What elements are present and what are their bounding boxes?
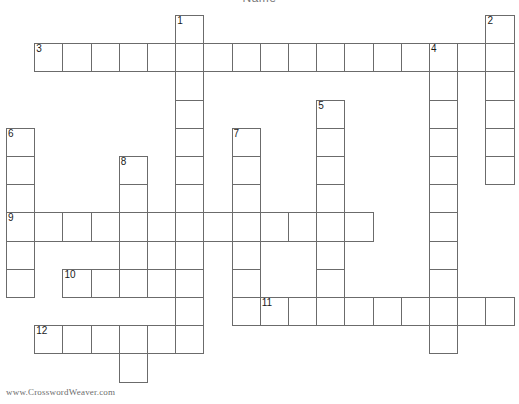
crossword-cell[interactable] (485, 43, 514, 72)
crossword-cell[interactable] (175, 241, 204, 270)
crossword-cell[interactable] (429, 212, 458, 241)
crossword-cell[interactable] (175, 297, 204, 326)
crossword-cell[interactable] (175, 156, 204, 185)
crossword-cell[interactable] (429, 71, 458, 100)
crossword-grid[interactable]: 123456789101112 (0, 0, 519, 404)
crossword-cell[interactable] (344, 297, 373, 326)
crossword-cell[interactable] (175, 325, 204, 354)
crossword-cell[interactable] (119, 241, 148, 270)
crossword-cell[interactable] (91, 212, 120, 241)
crossword-cell[interactable]: 12 (34, 325, 63, 354)
crossword-cell[interactable] (119, 325, 148, 354)
crossword-cell[interactable] (288, 43, 317, 72)
crossword-cell[interactable] (175, 71, 204, 100)
crossword-cell[interactable]: 2 (485, 15, 514, 44)
crossword-cell[interactable] (91, 269, 120, 298)
crossword-cell[interactable] (119, 353, 148, 382)
crossword-cell[interactable] (175, 184, 204, 213)
crossword-cell[interactable] (429, 269, 458, 298)
crossword-cell[interactable] (316, 297, 345, 326)
crossword-cell[interactable] (344, 212, 373, 241)
crossword-cell[interactable] (175, 212, 204, 241)
crossword-cell[interactable]: 10 (62, 269, 91, 298)
crossword-cell[interactable] (316, 43, 345, 72)
crossword-cell[interactable] (260, 43, 289, 72)
crossword-cell[interactable] (203, 43, 232, 72)
crossword-cell[interactable] (288, 212, 317, 241)
crossword-cell[interactable] (175, 43, 204, 72)
crossword-puzzle: Name 123456789101112 www.CrosswordWeaver… (0, 0, 519, 404)
crossword-cell[interactable] (429, 297, 458, 326)
crossword-cell[interactable] (6, 241, 35, 270)
crossword-cell[interactable] (485, 128, 514, 157)
crossword-cell[interactable] (316, 184, 345, 213)
crossword-cell[interactable] (316, 156, 345, 185)
crossword-cell[interactable] (344, 43, 373, 72)
crossword-cell[interactable] (119, 43, 148, 72)
crossword-cell[interactable] (288, 297, 317, 326)
crossword-cell[interactable] (119, 269, 148, 298)
crossword-cell[interactable] (62, 43, 91, 72)
crossword-cell[interactable] (232, 43, 261, 72)
crossword-cell[interactable] (119, 212, 148, 241)
crossword-cell[interactable]: 3 (34, 43, 63, 72)
crossword-cell[interactable] (232, 297, 261, 326)
crossword-cell[interactable] (175, 100, 204, 129)
crossword-cell[interactable] (316, 241, 345, 270)
crossword-cell[interactable] (62, 325, 91, 354)
crossword-cell[interactable] (316, 212, 345, 241)
crossword-cell[interactable] (232, 184, 261, 213)
crossword-cell[interactable]: 4 (429, 43, 458, 72)
crossword-cell[interactable] (232, 241, 261, 270)
crossword-cell[interactable] (485, 100, 514, 129)
crossword-cell[interactable] (119, 184, 148, 213)
crossword-cell[interactable] (147, 269, 176, 298)
crossword-cell[interactable] (175, 128, 204, 157)
crossword-cell[interactable] (373, 297, 402, 326)
crossword-cell[interactable] (147, 43, 176, 72)
cell-number: 12 (36, 325, 47, 336)
crossword-cell[interactable] (429, 241, 458, 270)
crossword-cell[interactable] (429, 100, 458, 129)
crossword-cell[interactable] (62, 212, 91, 241)
watermark-crosswordweaver: www.CrosswordWeaver.com (6, 387, 115, 397)
crossword-cell[interactable] (485, 297, 514, 326)
cell-number: 8 (121, 156, 127, 167)
crossword-cell[interactable]: 5 (316, 100, 345, 129)
crossword-cell[interactable] (401, 43, 430, 72)
crossword-cell[interactable]: 11 (260, 297, 289, 326)
crossword-cell[interactable] (232, 156, 261, 185)
crossword-cell[interactable] (429, 184, 458, 213)
crossword-cell[interactable] (260, 212, 289, 241)
crossword-cell[interactable] (429, 128, 458, 157)
crossword-cell[interactable] (34, 212, 63, 241)
crossword-cell[interactable] (203, 212, 232, 241)
crossword-cell[interactable]: 7 (232, 128, 261, 157)
crossword-cell[interactable]: 8 (119, 156, 148, 185)
crossword-cell[interactable] (232, 269, 261, 298)
crossword-cell[interactable]: 1 (175, 15, 204, 44)
crossword-cell[interactable] (429, 156, 458, 185)
crossword-cell[interactable] (485, 71, 514, 100)
crossword-cell[interactable]: 6 (6, 128, 35, 157)
crossword-cell[interactable] (401, 297, 430, 326)
crossword-cell[interactable] (485, 156, 514, 185)
crossword-cell[interactable] (6, 184, 35, 213)
crossword-cell[interactable] (457, 43, 486, 72)
crossword-cell[interactable] (91, 43, 120, 72)
cell-number: 9 (8, 212, 14, 223)
crossword-cell[interactable] (91, 325, 120, 354)
crossword-cell[interactable]: 9 (6, 212, 35, 241)
crossword-cell[interactable] (316, 128, 345, 157)
crossword-cell[interactable] (6, 269, 35, 298)
crossword-cell[interactable] (175, 269, 204, 298)
crossword-cell[interactable] (6, 156, 35, 185)
crossword-cell[interactable] (316, 269, 345, 298)
crossword-cell[interactable] (147, 212, 176, 241)
crossword-cell[interactable] (232, 212, 261, 241)
crossword-cell[interactable] (429, 325, 458, 354)
crossword-cell[interactable] (373, 43, 402, 72)
crossword-cell[interactable] (147, 325, 176, 354)
crossword-cell[interactable] (457, 297, 486, 326)
cell-number: 5 (318, 100, 324, 111)
